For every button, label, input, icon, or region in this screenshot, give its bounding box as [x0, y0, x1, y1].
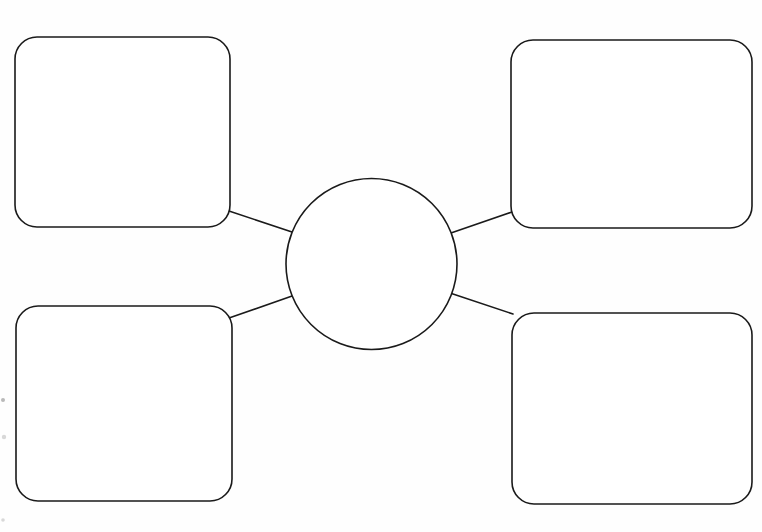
node-top-right-box[interactable]	[511, 40, 752, 228]
connector-bottom-right[interactable]	[450, 293, 513, 314]
connector-top-right[interactable]	[450, 212, 513, 234]
scan-speck	[1, 398, 5, 402]
connector-top-left[interactable]	[229, 211, 294, 233]
node-bottom-right[interactable]	[512, 313, 752, 504]
scan-artifact-group	[1, 398, 6, 522]
center-circle[interactable]	[286, 179, 457, 350]
node-bottom-left-box[interactable]	[16, 306, 232, 501]
scan-speck	[2, 435, 6, 439]
scan-speck	[1, 518, 5, 522]
center-circle-shape[interactable]	[286, 179, 457, 350]
node-top-left-box[interactable]	[15, 37, 230, 227]
node-bottom-right-box[interactable]	[512, 313, 752, 504]
node-top-left[interactable]	[15, 37, 230, 227]
concept-map-diagram	[0, 0, 762, 532]
worksheet-canvas	[0, 0, 762, 532]
node-top-right[interactable]	[511, 40, 752, 228]
connector-bottom-left[interactable]	[229, 296, 294, 319]
node-bottom-left[interactable]	[16, 306, 232, 501]
